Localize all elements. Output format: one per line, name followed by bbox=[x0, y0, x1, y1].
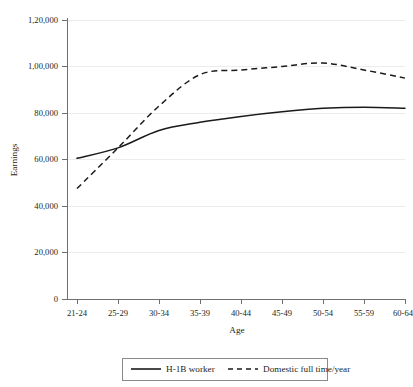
y-tick-label-20000: 20,000 bbox=[34, 247, 58, 257]
x-tick-label-25-29: 25-29 bbox=[108, 308, 128, 318]
x-tick-label-55-59: 55-59 bbox=[354, 308, 374, 318]
y-axis-tick-labels: 1,20,000 1,00,000 80,000 60,000 40,000 2… bbox=[28, 15, 58, 304]
x-tick-label-60-64: 60-64 bbox=[393, 308, 413, 318]
y-tick-label-0: 0 bbox=[54, 294, 58, 304]
gridlines bbox=[67, 20, 405, 252]
chart-legend: H-1B worker Domestic full time/year bbox=[122, 358, 350, 380]
y-tick-label-100000: 1,00,000 bbox=[28, 61, 58, 71]
y-tick-label-80000: 80,000 bbox=[34, 108, 58, 118]
chart-figure: 1,20,000 1,00,000 80,000 60,000 40,000 2… bbox=[0, 0, 413, 387]
x-tick-label-21-24: 21-24 bbox=[67, 308, 88, 318]
y-axis-title: Earnings bbox=[9, 143, 19, 176]
y-tick-label-60000: 60,000 bbox=[34, 154, 58, 164]
x-tick-label-45-49: 45-49 bbox=[272, 308, 292, 318]
x-axis-title: Age bbox=[229, 325, 244, 335]
x-axis-tick-labels: 21-24 25-29 30-34 35-39 40-44 45-49 50-5… bbox=[67, 308, 413, 318]
y-axis-ticks bbox=[62, 20, 67, 299]
legend-label-h1b-worker: H-1B worker bbox=[166, 364, 215, 374]
x-tick-label-50-54: 50-54 bbox=[313, 308, 334, 318]
x-axis-ticks bbox=[77, 299, 405, 304]
legend-label-domestic-full-time: Domestic full time/year bbox=[263, 364, 350, 374]
earnings-by-age-line-chart: 1,20,000 1,00,000 80,000 60,000 40,000 2… bbox=[0, 0, 413, 387]
x-tick-label-35-39: 35-39 bbox=[190, 308, 210, 318]
x-tick-label-40-44: 40-44 bbox=[231, 308, 252, 318]
series-line-h1b-worker bbox=[77, 107, 405, 158]
y-tick-label-40000: 40,000 bbox=[34, 201, 58, 211]
y-tick-label-120000: 1,20,000 bbox=[28, 15, 58, 25]
series-line-domestic-full-time bbox=[77, 63, 405, 189]
x-tick-label-30-34: 30-34 bbox=[149, 308, 170, 318]
